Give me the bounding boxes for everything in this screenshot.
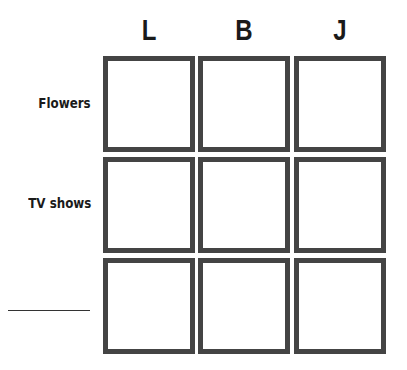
grid-cell-3-2[interactable] xyxy=(198,258,290,354)
row-label-2: TV shows xyxy=(28,195,91,211)
grid-cell-2-1[interactable] xyxy=(103,157,195,253)
grid-cell-3-3[interactable] xyxy=(294,258,386,354)
grid-cell-1-3[interactable] xyxy=(294,56,386,152)
grid-cell-3-1[interactable] xyxy=(103,258,195,354)
column-header-1: L xyxy=(112,14,186,46)
column-header-2: B xyxy=(207,14,281,46)
column-header-3: J xyxy=(303,14,377,46)
row-label-1: Flowers xyxy=(39,95,91,111)
grid-cell-1-1[interactable] xyxy=(103,56,195,152)
row-label-3-blank-line[interactable] xyxy=(8,310,90,311)
grid-cell-1-2[interactable] xyxy=(198,56,290,152)
grid-cell-2-3[interactable] xyxy=(294,157,386,253)
grid-cell-2-2[interactable] xyxy=(198,157,290,253)
